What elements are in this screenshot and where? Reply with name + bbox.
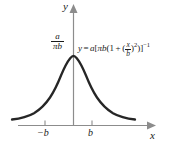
axis-label-x: x [150, 130, 155, 141]
x-tick-label-neg-b: −b [37, 128, 49, 138]
equation-equals: = [84, 43, 89, 53]
equation-outer-exponent: −1 [143, 41, 150, 48]
figure-container: y x −b b a πb y=a[πb(1+(xb)2)]−1 [0, 0, 174, 145]
plot-svg [0, 0, 174, 145]
peak-value-label: a πb [51, 32, 64, 52]
equation-lhs: y [78, 43, 82, 53]
equation-label: y=a[πb(1+(xb)2)]−1 [78, 41, 150, 57]
y-axis-arrowhead [70, 4, 78, 13]
axis-label-y: y [63, 1, 68, 12]
peak-fraction-denominator: πb [51, 42, 64, 51]
x-tick-label-pos-b: b [88, 128, 93, 138]
equation-pi-b: πb [98, 43, 107, 53]
equation-one: 1 [110, 43, 115, 53]
equation-plus: + [116, 43, 121, 53]
peak-fraction: a πb [51, 32, 64, 52]
